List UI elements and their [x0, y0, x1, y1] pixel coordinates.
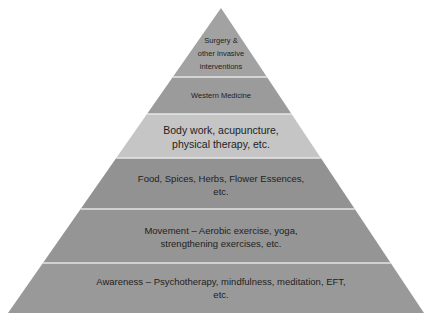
tier-label-line: interventions [171, 60, 271, 73]
tier-label-line: Food, Spices, Herbs, Flower Essences, [90, 172, 352, 185]
tier-label-line: other invasive [171, 47, 271, 60]
tier-label-awareness: Awareness – Psychotherapy, mindfulness, … [30, 275, 412, 301]
tier-label-line: physical therapy, etc. [120, 137, 322, 151]
tier-label-line: etc. [90, 185, 352, 198]
tier-label-line: Body work, acupuncture, [120, 123, 322, 137]
tier-label-line: Awareness – Psychotherapy, mindfulness, … [30, 275, 412, 288]
tier-label-line: Movement – Aerobic exercise, yoga, [60, 224, 382, 237]
tier-label-food-herbs: Food, Spices, Herbs, Flower Essences, et… [90, 172, 352, 198]
tier-label-western-medicine: Western Medicine [150, 91, 292, 100]
tier-label-line: etc. [30, 288, 412, 301]
tier-label-movement: Movement – Aerobic exercise, yoga, stren… [60, 224, 382, 250]
tier-label-line: Western Medicine [150, 91, 292, 100]
tier-label-line: strengthening exercises, etc. [60, 237, 382, 250]
tier-label-line: Surgery & [171, 34, 271, 47]
tier-label-surgery: Surgery & other invasive interventions [171, 34, 271, 73]
tier-label-body-work: Body work, acupuncture, physical therapy… [120, 123, 322, 151]
